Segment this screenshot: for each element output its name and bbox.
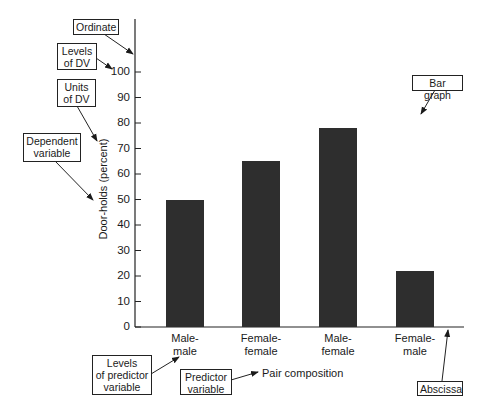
y-tick-label: 10 [100,295,130,307]
bar [242,161,280,327]
y-tick-label: 80 [100,116,130,128]
bar [166,200,204,328]
y-tick-label: 20 [100,269,130,281]
x-category-label: Female- female [231,332,291,358]
annotated-bar-chart: 0102030405060708090100 Male- maleFemale-… [0,0,487,416]
annotation-abscissa: Abscissa [417,381,463,396]
annotation-bar-graph: Bar graph [412,75,463,91]
ordinate-arrow [104,34,133,54]
y-tick-label: 30 [100,244,130,256]
levels-predictor-arrow [151,357,179,374]
y-axis-label: Door-holds (percent) [97,134,109,244]
predictor-variable-arrow [231,372,258,380]
x-category-label: Female- male [385,332,445,358]
annotation-ordinate: Ordinate [73,19,119,35]
y-ticks [135,72,141,327]
x-category-label: Male- female [308,332,368,358]
y-tick-label: 90 [100,91,130,103]
y-tick-label: 100 [100,65,130,77]
bar [396,271,434,327]
dependent-variable-arrow [55,161,93,200]
annotation-predictor-variable: Predictor variable [180,369,232,395]
bar [319,128,357,327]
annotation-levels-dv: Levels of DV [57,43,97,70]
annotation-units-dv: Units of DV [57,79,96,107]
y-tick-label: 0 [100,320,130,332]
x-category-label: Male- male [155,332,215,358]
annotation-dependent-variable: Dependent variable [23,133,81,162]
x-axis-label: Pair composition [262,367,343,379]
annotation-levels-predictor: Levels of predictor variable [92,355,152,395]
